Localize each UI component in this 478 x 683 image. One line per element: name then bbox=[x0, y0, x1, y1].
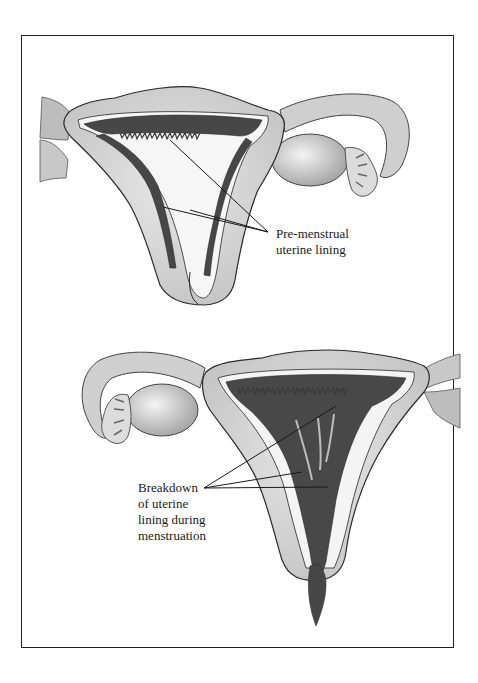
anatomy-illustration bbox=[0, 0, 478, 683]
menstruation-lining-label: Breakdown of uterine lining during menst… bbox=[138, 480, 206, 544]
menstrual-flow bbox=[308, 564, 326, 626]
label-line: menstruation bbox=[138, 528, 206, 544]
label-line: Pre-menstrual bbox=[276, 226, 349, 242]
label-line: of uterine bbox=[138, 496, 206, 512]
premenstrual-lining-label: Pre-menstrual uterine lining bbox=[276, 226, 349, 258]
premenstrual-uterus bbox=[40, 87, 409, 305]
label-line: Breakdown bbox=[138, 480, 206, 496]
label-line: lining during bbox=[138, 512, 206, 528]
ovary bbox=[272, 134, 348, 186]
ovary bbox=[126, 384, 198, 436]
label-line: uterine lining bbox=[276, 242, 349, 258]
